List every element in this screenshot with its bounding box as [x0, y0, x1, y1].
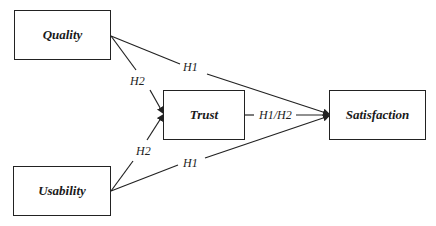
node-quality: Quality: [14, 10, 111, 60]
edge-label: H1: [182, 60, 198, 74]
edge-label: H2: [129, 74, 145, 88]
edge-label: H2: [135, 144, 151, 158]
edge-label: H1/H2: [258, 108, 292, 122]
node-satisfaction: Satisfaction: [329, 90, 426, 140]
edge-usability-trust: H2: [111, 115, 163, 191]
node-label: Satisfaction: [346, 107, 410, 123]
edge-label: H1: [182, 156, 198, 170]
node-label: Quality: [43, 27, 83, 43]
node-label: Usability: [38, 183, 86, 199]
node-label: Trust: [190, 107, 218, 123]
node-trust: Trust: [163, 90, 245, 140]
edge-quality-trust: H2: [111, 36, 163, 113]
node-usability: Usability: [13, 166, 111, 216]
